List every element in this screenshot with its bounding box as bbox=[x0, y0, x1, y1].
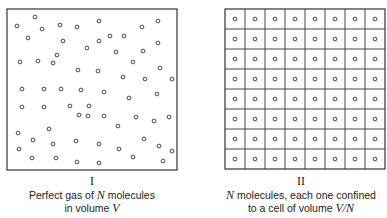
molecule-icon bbox=[233, 137, 237, 141]
molecule-icon bbox=[273, 97, 277, 101]
molecule-icon bbox=[97, 19, 101, 23]
molecule-icon bbox=[108, 34, 112, 38]
molecule-icon bbox=[26, 36, 30, 40]
molecule-icon bbox=[273, 77, 277, 81]
molecule-icon bbox=[102, 114, 106, 118]
molecule-icon bbox=[373, 37, 377, 41]
molecule-icon bbox=[293, 97, 297, 101]
grid-boundary bbox=[225, 9, 385, 169]
molecule-icon bbox=[51, 61, 55, 65]
molecule-icon bbox=[313, 97, 317, 101]
molecule-icon bbox=[253, 17, 257, 21]
molecule-icon bbox=[31, 138, 35, 142]
molecule-icon bbox=[353, 17, 357, 21]
molecule-icon bbox=[87, 104, 91, 108]
molecule-icon bbox=[313, 77, 317, 81]
molecule-icon bbox=[233, 97, 237, 101]
molecule-icon bbox=[313, 117, 317, 121]
molecule-icon bbox=[373, 97, 377, 101]
molecule-icon bbox=[170, 77, 174, 81]
molecule-icon bbox=[253, 77, 257, 81]
molecule-icon bbox=[40, 27, 44, 31]
molecule-icon bbox=[333, 37, 337, 41]
molecule-icon bbox=[313, 157, 317, 161]
molecule-icon bbox=[156, 19, 160, 23]
molecule-icon bbox=[253, 57, 257, 61]
panel-i-numeral: I bbox=[0, 174, 184, 189]
molecule-icon bbox=[253, 137, 257, 141]
molecule-icon bbox=[273, 137, 277, 141]
molecule-icon bbox=[143, 77, 147, 81]
molecule-icon bbox=[167, 115, 171, 119]
molecule-icon bbox=[373, 57, 377, 61]
molecule-icon bbox=[79, 88, 83, 92]
molecule-icon bbox=[273, 117, 277, 121]
molecule-icon bbox=[273, 17, 277, 21]
caption-text: to a cell of volume bbox=[248, 202, 336, 214]
molecule-icon bbox=[75, 160, 79, 164]
molecule-icon bbox=[373, 117, 377, 121]
molecule-icon bbox=[140, 25, 144, 29]
molecule-icon bbox=[313, 17, 317, 21]
molecule-icon bbox=[58, 23, 62, 27]
molecule-icon bbox=[353, 57, 357, 61]
molecule-icon bbox=[253, 37, 257, 41]
caption-var-vn: V/N bbox=[335, 201, 354, 215]
molecule-icon bbox=[353, 77, 357, 81]
molecule-icon bbox=[353, 117, 357, 121]
molecule-icon bbox=[161, 159, 165, 163]
molecule-icon bbox=[17, 147, 21, 151]
molecule-icon bbox=[97, 142, 101, 146]
molecule-icon bbox=[293, 117, 297, 121]
caption-text: molecules bbox=[105, 189, 155, 201]
molecule-icon bbox=[142, 137, 146, 141]
molecule-icon bbox=[293, 137, 297, 141]
molecule-icon bbox=[373, 77, 377, 81]
molecule-icon bbox=[42, 87, 46, 91]
molecule-icon bbox=[86, 114, 90, 118]
molecule-icon bbox=[273, 57, 277, 61]
molecule-icon bbox=[313, 57, 317, 61]
molecule-icon bbox=[373, 17, 377, 21]
molecule-icon bbox=[121, 75, 125, 79]
molecule-icon bbox=[293, 57, 297, 61]
molecule-icon bbox=[313, 37, 317, 41]
molecule-icon bbox=[54, 156, 58, 160]
molecule-icon bbox=[102, 90, 106, 94]
molecule-icon bbox=[97, 161, 101, 165]
molecule-icon bbox=[353, 37, 357, 41]
molecule-icon bbox=[55, 53, 59, 57]
molecule-icon bbox=[253, 97, 257, 101]
molecule-icon bbox=[47, 127, 51, 131]
molecule-icon bbox=[114, 50, 118, 54]
molecule-icon bbox=[59, 87, 63, 91]
molecule-icon bbox=[131, 155, 135, 159]
panel-ii-numeral: II bbox=[215, 174, 387, 189]
molecule-icon bbox=[85, 46, 89, 50]
panel-i-caption: Perfect gas of N molecules in volume V bbox=[0, 189, 184, 215]
molecule-icon bbox=[51, 142, 55, 146]
caption-text: in volume bbox=[64, 202, 112, 214]
molecule-icon bbox=[122, 34, 126, 38]
panel-perfect-gas: I Perfect gas of N molecules in volume V bbox=[0, 0, 190, 218]
molecule-icon bbox=[77, 113, 81, 117]
container-boundary bbox=[7, 9, 177, 170]
molecule-icon bbox=[293, 37, 297, 41]
molecule-icon bbox=[333, 17, 337, 21]
molecule-icon bbox=[30, 156, 34, 160]
molecule-icon bbox=[373, 157, 377, 161]
molecule-icon bbox=[97, 39, 101, 43]
molecule-icon bbox=[96, 69, 100, 73]
molecule-icon bbox=[333, 97, 337, 101]
molecule-icon bbox=[116, 124, 120, 128]
molecule-icon bbox=[253, 157, 257, 161]
molecule-icon bbox=[42, 105, 46, 109]
molecule-icon bbox=[373, 137, 377, 141]
molecule-icon bbox=[68, 104, 72, 108]
caption-var-v: V bbox=[112, 201, 119, 215]
molecule-icon bbox=[233, 17, 237, 21]
molecule-icon bbox=[313, 137, 317, 141]
molecule-icon bbox=[61, 39, 65, 43]
molecule-icon bbox=[117, 147, 121, 151]
molecule-icon bbox=[76, 68, 80, 72]
